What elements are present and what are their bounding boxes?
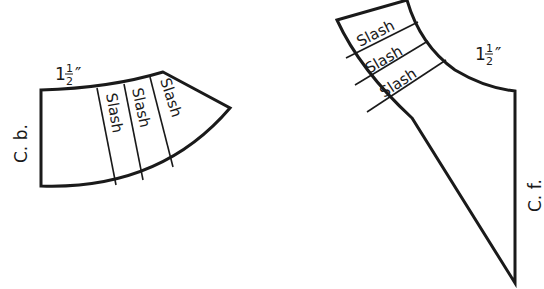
- back-measure-den: 2: [66, 75, 73, 88]
- front-measure-num: 1: [486, 42, 493, 55]
- back-measure-unit: ″: [75, 64, 81, 84]
- back-pattern-piece: Slash Slash Slash 1 1 2 ″ C. b.: [11, 62, 230, 186]
- back-measurement: 1 1 2 ″: [55, 62, 81, 88]
- center-front-label: C. f.: [525, 179, 544, 212]
- back-slash-label-1: Slash: [102, 92, 127, 135]
- back-measure-whole: 1: [55, 64, 66, 84]
- front-measure-whole: 1: [475, 44, 486, 64]
- front-pattern-piece: Slash Slash Slash 1 1 2 ″ C. f.: [337, 0, 544, 283]
- back-measure-num: 1: [66, 62, 73, 75]
- front-measure-unit: ″: [495, 44, 501, 64]
- front-measure-den: 2: [486, 55, 493, 68]
- front-measurement: 1 1 2 ″: [475, 42, 501, 68]
- center-back-label: C. b.: [11, 124, 31, 163]
- pattern-diagram: Slash Slash Slash 1 1 2 ″ C. b. Slash Sl…: [0, 0, 544, 289]
